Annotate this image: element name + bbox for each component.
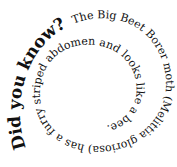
spiral-text: Did you know? The Big Beet Borer moth (M… [4,8,176,156]
spiral-text-graphic: Did you know? The Big Beet Borer moth (M… [0,0,177,167]
